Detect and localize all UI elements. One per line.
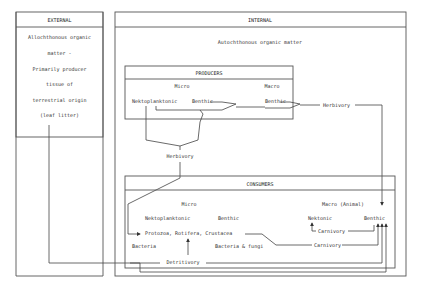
herbivory-micro-label: Herbivory bbox=[166, 153, 193, 160]
external-line-1: Allochthonous organic bbox=[28, 34, 91, 41]
detritivory-label: Detritivory bbox=[166, 259, 199, 266]
producers-micro-nektoplanktonic: Nektoplanktonic bbox=[132, 98, 177, 105]
carnivory-upper-label: Carnivory bbox=[318, 228, 345, 235]
producers-macro-benthic: Benthic bbox=[265, 98, 286, 104]
consumers-box: CONSUMERS Micro Macro (Animal) Nektoplan… bbox=[125, 176, 395, 268]
trophic-flow-diagram: EXTERNAL Allochthonous organic matter - … bbox=[0, 0, 423, 291]
external-line-5: terrestrial origin bbox=[32, 97, 86, 104]
consumers-micro-benthic: Benthic bbox=[218, 215, 239, 221]
leaf-litter-flow-line bbox=[49, 125, 140, 263]
consumers-macro-benthic: Benthic bbox=[364, 215, 385, 221]
consumers-bacteria-fungi: Bacteria & fungi bbox=[215, 243, 263, 250]
consumers-macro-nektonic: Nektonic bbox=[308, 215, 332, 221]
consumers-micro-nektoplanktonic: Nektoplanktonic bbox=[145, 215, 190, 222]
consumers-bacteria: Bacteria bbox=[132, 243, 156, 249]
consumers-micro-label: Micro bbox=[181, 201, 196, 207]
producers-header: PRODUCERS bbox=[195, 70, 222, 76]
external-line-4: tissue of bbox=[46, 81, 73, 87]
producers-micro-benthic: Benthic bbox=[192, 98, 213, 104]
external-box: EXTERNAL Allochthonous organic matter - … bbox=[16, 12, 103, 276]
external-line-2: matter - bbox=[47, 50, 71, 56]
herbivory-macro-label: Herbivory bbox=[323, 102, 350, 109]
external-line-6: (leaf litter) bbox=[40, 112, 79, 118]
consumers-protozoa: Protozoa, Rotifera, Crustacea bbox=[145, 230, 232, 236]
carnivory-lower-label: Carnivory bbox=[314, 242, 341, 249]
internal-box: INTERNAL Autochthonous organic matter bbox=[115, 12, 406, 276]
external-header: EXTERNAL bbox=[47, 17, 71, 23]
external-line-3: Primarily producer bbox=[32, 66, 86, 73]
producers-macro-label: Macro bbox=[264, 83, 279, 89]
internal-header: INTERNAL bbox=[248, 17, 272, 23]
consumers-macro-label: Macro (Animal) bbox=[322, 201, 364, 207]
herbivory-to-protozoa-line bbox=[128, 162, 180, 234]
consumers-header: CONSUMERS bbox=[246, 181, 273, 187]
producers-box: PRODUCERS Micro Macro Nektoplanktonic Be… bbox=[125, 66, 293, 119]
internal-subtitle: Autochthonous organic matter bbox=[218, 39, 302, 46]
producers-micro-label: Micro bbox=[174, 83, 189, 89]
